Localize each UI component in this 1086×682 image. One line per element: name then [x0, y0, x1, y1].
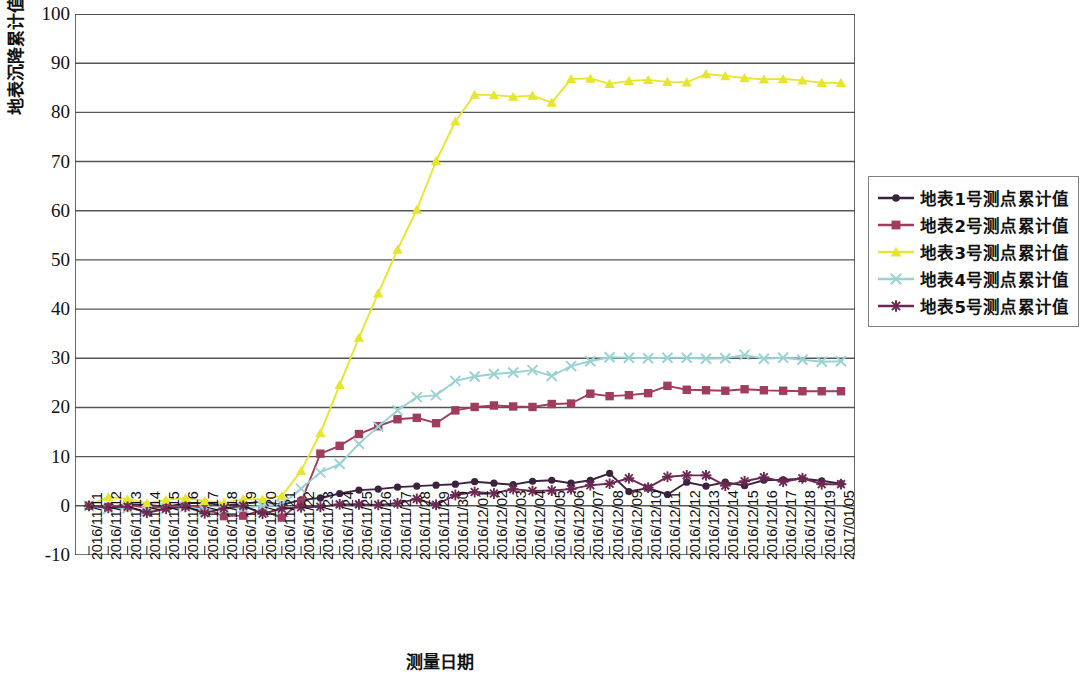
y-axis-tick: 10	[22, 447, 70, 466]
x-axis-tick-label: 2016/12/18	[802, 490, 818, 560]
x-axis-tick-label: 2016/11/20	[263, 492, 279, 561]
x-axis-tick: 2016/12/07	[582, 558, 598, 574]
legend-label: 地表2号测点累计值	[916, 213, 1069, 237]
y-axis-tick: 50	[22, 250, 70, 269]
plot-svg	[75, 14, 855, 555]
x-axis-tick: 2016/12/11	[659, 558, 675, 574]
x-axis-tick-label: 2016/11/12	[108, 492, 124, 561]
x-axis-tick: 2016/11/18	[216, 558, 232, 574]
x-axis-tick-label: 2016/12/06	[571, 490, 587, 560]
x-axis-tick-label: 2016/12/04	[532, 490, 548, 560]
x-axis-tick: 2016/11/25	[351, 558, 367, 574]
y-axis-tick: 60	[22, 201, 70, 220]
x-axis-tick-label: 2016/11/25	[359, 492, 375, 561]
x-axis-tick: 2016/12/03	[505, 558, 521, 574]
x-axis-tick-label: 2016/11/19	[243, 492, 259, 561]
x-axis-tick-label: 2016/11/22	[301, 492, 317, 561]
x-axis-tick-label: 2016/11/14	[147, 492, 163, 561]
x-axis-tick-label: 2016/12/08	[610, 490, 626, 560]
x-axis-tick-label: 2016/11/17	[205, 492, 221, 561]
legend-item-1[interactable]: 地表1号测点累计值	[876, 184, 1069, 211]
x-axis-tick: 2016/12/06	[563, 558, 579, 574]
legend-item-5[interactable]: 地表5号测点累计值	[876, 292, 1069, 319]
x-axis-tick: 2016/12/09	[621, 558, 637, 574]
x-axis-tick: 2016/11/13	[120, 558, 136, 574]
x-axis-tick: 2016/11/19	[235, 558, 251, 574]
x-axis-tick: 2016/12/05	[544, 558, 560, 574]
x-axis-tick-label: 2016/12/11	[667, 492, 683, 561]
legend-label: 地表4号测点累计值	[916, 267, 1069, 291]
x-axis-tick: 2016/11/16	[177, 558, 193, 574]
x-axis-tick: 2016/12/02	[486, 558, 502, 574]
legend-label: 地表1号测点累计值	[916, 186, 1069, 210]
x-axis-tick: 2016/12/14	[717, 558, 733, 574]
x-axis-tick: 2016/11/29	[428, 558, 444, 574]
x-axis-tick: 2016/11/24	[332, 558, 348, 574]
x-axis-tick-label: 2016/12/12	[687, 490, 703, 560]
x-axis-tick-label: 2016/12/07	[590, 490, 606, 560]
x-axis-tick: 2016/12/01	[467, 558, 483, 574]
x-axis-tick: 2016/11/21	[274, 558, 290, 574]
x-axis-tick-label: 2016/11/18	[224, 492, 240, 561]
chart-legend: 地表1号测点累计值地表2号测点累计值地表3号测点累计值地表4号测点累计值地表5号…	[868, 176, 1079, 327]
legend-label: 地表5号测点累计值	[916, 294, 1069, 318]
legend-marker-triangle-icon	[876, 242, 916, 262]
x-axis-tick-label: 2016/12/03	[513, 490, 529, 560]
x-axis-tick-label: 2017/01/05	[841, 490, 857, 560]
x-axis-tick-label: 2016/11/30	[455, 492, 471, 561]
y-axis-tick: 20	[22, 397, 70, 416]
x-axis-tick: 2016/11/30	[447, 558, 463, 574]
chart-page: 地表沉降累计值(mm) 1009080706050403020100-10 20…	[0, 0, 1086, 682]
x-axis-tick: 2016/12/12	[679, 558, 695, 574]
y-axis-tick: -10	[22, 545, 70, 564]
x-axis-tick-label: 2016/12/09	[629, 490, 645, 560]
x-axis-tick-label: 2016/12/15	[745, 490, 761, 560]
x-axis-tick-labels: 2016/11/112016/11/122016/11/132016/11/14…	[75, 558, 865, 658]
legend-marker-asterisk-icon	[876, 296, 916, 316]
x-axis-tick-label: 2016/12/16	[764, 490, 780, 560]
x-axis-tick: 2016/11/26	[370, 558, 386, 574]
x-axis-tick: 2016/11/14	[139, 558, 155, 574]
legend-label: 地表3号测点累计值	[916, 240, 1069, 264]
x-axis-tick-label: 2016/12/19	[822, 490, 838, 560]
x-axis-tick-label: 2016/12/02	[494, 490, 510, 560]
x-axis-tick: 2016/11/15	[158, 558, 174, 574]
y-axis-tick: 90	[22, 53, 70, 72]
x-axis-tick-label: 2016/11/11	[89, 493, 105, 560]
x-axis-tick-label: 2016/12/01	[475, 490, 491, 560]
y-axis-tick: 100	[22, 4, 70, 23]
x-axis-tick-label: 2016/11/13	[128, 492, 144, 561]
x-axis-tick: 2017/01/05	[833, 558, 849, 574]
legend-item-3[interactable]: 地表3号测点累计值	[876, 238, 1069, 265]
series-line-3	[84, 69, 846, 509]
y-axis-tick: 80	[22, 102, 70, 121]
x-axis-tick: 2016/12/16	[756, 558, 772, 574]
x-axis-tick: 2016/12/08	[602, 558, 618, 574]
x-axis-tick-label: 2016/11/24	[340, 492, 356, 561]
x-axis-tick: 2016/11/20	[255, 558, 271, 574]
plot-area	[75, 14, 855, 555]
y-axis-tick: 70	[22, 152, 70, 171]
legend-marker-square-icon	[876, 215, 916, 235]
legend-item-4[interactable]: 地表4号测点累计值	[876, 265, 1069, 292]
x-axis-tick: 2016/11/23	[312, 558, 328, 574]
x-axis-tick-label: 2016/12/14	[725, 490, 741, 560]
x-axis-tick-label: 2016/11/15	[166, 492, 182, 561]
y-axis-tick: 0	[22, 496, 70, 515]
x-axis-tick: 2016/11/17	[197, 558, 213, 574]
x-axis-tick-label: 2016/11/21	[282, 492, 298, 561]
x-axis-tick: 2016/12/10	[640, 558, 656, 574]
y-axis-tick-labels: 1009080706050403020100-10	[12, 0, 70, 560]
x-axis-tick-label: 2016/12/05	[552, 490, 568, 560]
x-axis-title: 测量日期	[0, 648, 880, 673]
x-axis-tick: 2016/12/18	[794, 558, 810, 574]
legend-item-2[interactable]: 地表2号测点累计值	[876, 211, 1069, 238]
x-axis-tick: 2016/12/17	[775, 558, 791, 574]
x-axis-tick-label: 2016/12/13	[706, 490, 722, 560]
x-axis-tick-label: 2016/12/17	[783, 490, 799, 560]
x-axis-tick-label: 2016/11/28	[417, 492, 433, 561]
x-axis-tick: 2016/12/15	[737, 558, 753, 574]
legend-marker-diamond-icon	[876, 188, 916, 208]
y-axis-tick: 30	[22, 348, 70, 367]
legend-marker-cross-icon	[876, 269, 916, 289]
